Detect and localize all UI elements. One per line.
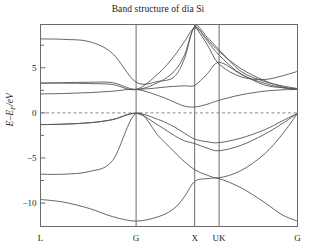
y-tick-label: 5 xyxy=(32,63,37,73)
y-tick-label: 0 xyxy=(32,108,37,118)
y-tick-labels: 50−5−10 xyxy=(22,63,37,208)
plot-frame xyxy=(41,25,298,227)
y-tick-label: −10 xyxy=(22,198,37,208)
x-tick-labels: LGXUKG xyxy=(38,233,302,243)
y-tick-label: −5 xyxy=(27,153,37,163)
x-tick-label: UK xyxy=(213,233,226,243)
band-structure-figure: Band structure of dia Si E–EF/eV 50−5−10… xyxy=(0,0,316,251)
x-tick-label: L xyxy=(38,233,44,243)
x-tick-label: G xyxy=(133,233,140,243)
band-curve-valence-band-1 xyxy=(41,178,298,221)
plot-area: 50−5−10 LGXUKG xyxy=(0,0,316,251)
kpath-vertical-lines xyxy=(136,25,219,227)
band-curve-valence-band-3 xyxy=(41,113,298,143)
band-curve-valence-band-2 xyxy=(41,113,298,178)
band-curves xyxy=(41,25,298,221)
x-tick-label: G xyxy=(294,233,301,243)
band-curve-conduction-band-2 xyxy=(41,28,298,90)
band-curve-conduction-band-1 xyxy=(41,89,298,107)
x-tick-label: X xyxy=(191,233,198,243)
